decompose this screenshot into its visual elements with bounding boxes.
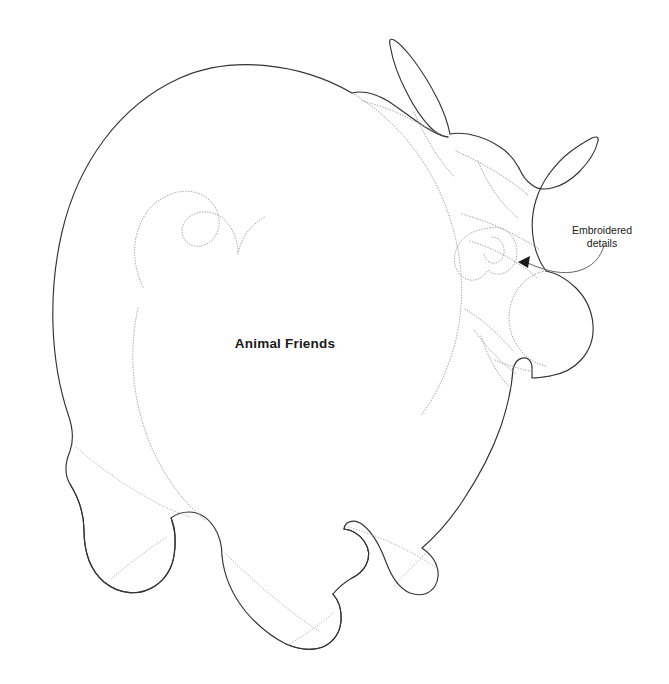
pig-front-leg-seam (348, 527, 435, 567)
pig-middle-foot-seam (288, 612, 334, 645)
pig-belly-outline (422, 369, 513, 564)
pig-foot-middle-outline (286, 594, 341, 649)
pig-neck-seam (352, 93, 462, 414)
pig-rear-leg-left-outline (70, 484, 175, 593)
pig-mouth-seam (465, 309, 513, 351)
pig-foot-right-outline (344, 529, 368, 578)
pig-snout-lower-outline (546, 271, 593, 376)
pig-rear-haunch-outline (171, 512, 222, 556)
pig-ear-right-fold-seam (478, 161, 518, 218)
pig-ear-right-outline (519, 137, 598, 189)
pig-haunch-seam (133, 308, 206, 521)
callout-label-line1: Embroidered (572, 224, 632, 236)
pig-eye-embroidery (454, 227, 516, 280)
pig-snout-seam (509, 271, 547, 366)
pig-tail-embroidery (135, 191, 238, 287)
pig-leg-middle-outline (222, 556, 341, 649)
callout-label-line2: details (587, 237, 617, 249)
pattern-canvas: Animal Friends Embroidered details (0, 0, 669, 684)
pig-pattern-illustration: Animal Friends Embroidered details (0, 0, 669, 684)
pig-far-leg-outline (344, 521, 438, 595)
pig-rear-thigh-seam (76, 447, 190, 517)
page-title: Animal Friends (235, 336, 335, 351)
pig-eye-inner-embroidery (484, 237, 504, 263)
pig-front-leg-right-outline (333, 529, 368, 594)
pig-rear-hoof-seam (112, 537, 167, 578)
pig-body-outline (53, 65, 352, 593)
pig-middle-leg-seam (225, 553, 319, 631)
pig-ear-left-outline (390, 39, 450, 137)
pig-head-top-outline (450, 133, 519, 168)
pig-tail-embroidery-tip (238, 217, 265, 254)
pig-ear-left-fold-seam (414, 112, 454, 176)
callout-arrow-icon (518, 256, 530, 268)
pig-muzzle-seam (474, 330, 516, 374)
